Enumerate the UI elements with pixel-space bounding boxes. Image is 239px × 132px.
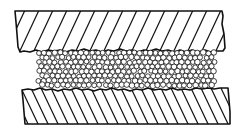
particle: [100, 50, 105, 55]
hatch-line: [186, 8, 208, 55]
particle: [55, 82, 61, 88]
particle: [90, 78, 95, 83]
hatch-line: [200, 86, 219, 126]
particle: [66, 64, 71, 69]
particle: [110, 60, 115, 65]
particle: [155, 64, 160, 69]
particle: [161, 82, 166, 87]
hatch-line: [140, 86, 159, 126]
particle: [37, 51, 42, 56]
granular-layer: [36, 50, 217, 89]
hatch-line: [60, 8, 82, 55]
particle: [131, 68, 136, 73]
hatch-line: [0, 86, 19, 126]
hatch-line: [158, 8, 180, 55]
particle: [86, 55, 91, 60]
top-plate-hatching: [0, 8, 239, 55]
hatch-line: [100, 86, 119, 126]
particle: [60, 73, 66, 79]
hatch-line: [170, 86, 189, 126]
hatch-line: [102, 8, 124, 55]
particle: [198, 64, 203, 69]
particle: [55, 64, 60, 69]
particle: [73, 69, 78, 74]
hatch-line: [40, 86, 59, 126]
particle: [71, 83, 76, 88]
particle: [132, 50, 137, 55]
particle: [184, 50, 189, 55]
particle: [84, 59, 89, 64]
particle: [166, 64, 172, 70]
particle: [97, 63, 103, 69]
hatch-line: [70, 86, 89, 126]
hatch-line: [116, 8, 138, 55]
particle: [68, 78, 73, 83]
particle: [118, 73, 123, 78]
particle: [114, 82, 120, 88]
particle: [155, 82, 160, 87]
hatch-line: [130, 8, 152, 55]
particle: [49, 83, 54, 88]
hatch-line: [90, 86, 109, 126]
hatch-line: [0, 8, 12, 55]
particle: [129, 54, 134, 59]
particle: [108, 55, 114, 61]
particle: [116, 59, 121, 64]
particle: [65, 83, 70, 88]
particle: [40, 82, 46, 88]
particle: [60, 54, 65, 59]
particle: [158, 68, 163, 73]
particle: [50, 73, 55, 78]
hatch-line: [18, 8, 40, 55]
particle: [71, 54, 76, 59]
particle: [108, 73, 113, 78]
particle: [193, 82, 199, 88]
bottom-plate: [0, 86, 239, 126]
hatch-line: [210, 86, 229, 126]
hatch-line: [60, 86, 79, 126]
particle: [206, 78, 211, 83]
particle: [47, 59, 52, 64]
particle: [183, 73, 188, 78]
particle: [200, 50, 206, 56]
hatch-line: [30, 86, 49, 126]
particle: [167, 83, 172, 88]
diagram-canvas: [0, 0, 239, 132]
particle: [187, 83, 192, 88]
hatch-line: [190, 86, 209, 126]
hatch-line: [10, 86, 29, 126]
hatch-line: [32, 8, 54, 55]
particle: [134, 83, 139, 88]
particle: [199, 73, 204, 78]
hatch-line: [46, 8, 68, 55]
particle: [102, 73, 107, 78]
particle: [153, 50, 158, 55]
hatch-line: [144, 8, 166, 55]
particle: [123, 55, 128, 60]
particle: [48, 69, 53, 74]
particle: [140, 73, 145, 78]
particle: [78, 77, 84, 83]
particle: [139, 83, 144, 88]
particle: [148, 50, 154, 56]
particle: [127, 69, 132, 74]
particle: [143, 77, 148, 82]
particle: [121, 59, 126, 64]
particle: [52, 50, 57, 55]
hatch-line: [110, 86, 129, 126]
hatch-line: [230, 86, 239, 126]
hatch-line: [150, 86, 169, 126]
hatch-line: [200, 8, 222, 55]
particle: [188, 73, 193, 78]
particle: [169, 69, 174, 74]
particle: [77, 83, 82, 88]
particle: [78, 59, 83, 64]
particle: [125, 65, 130, 70]
hatch-line: [120, 86, 139, 126]
particle: [92, 73, 97, 78]
particle: [97, 82, 102, 87]
particle: [81, 83, 86, 88]
hatch-line: [74, 8, 96, 55]
hatch-line: [130, 86, 149, 126]
particle: [194, 73, 199, 78]
